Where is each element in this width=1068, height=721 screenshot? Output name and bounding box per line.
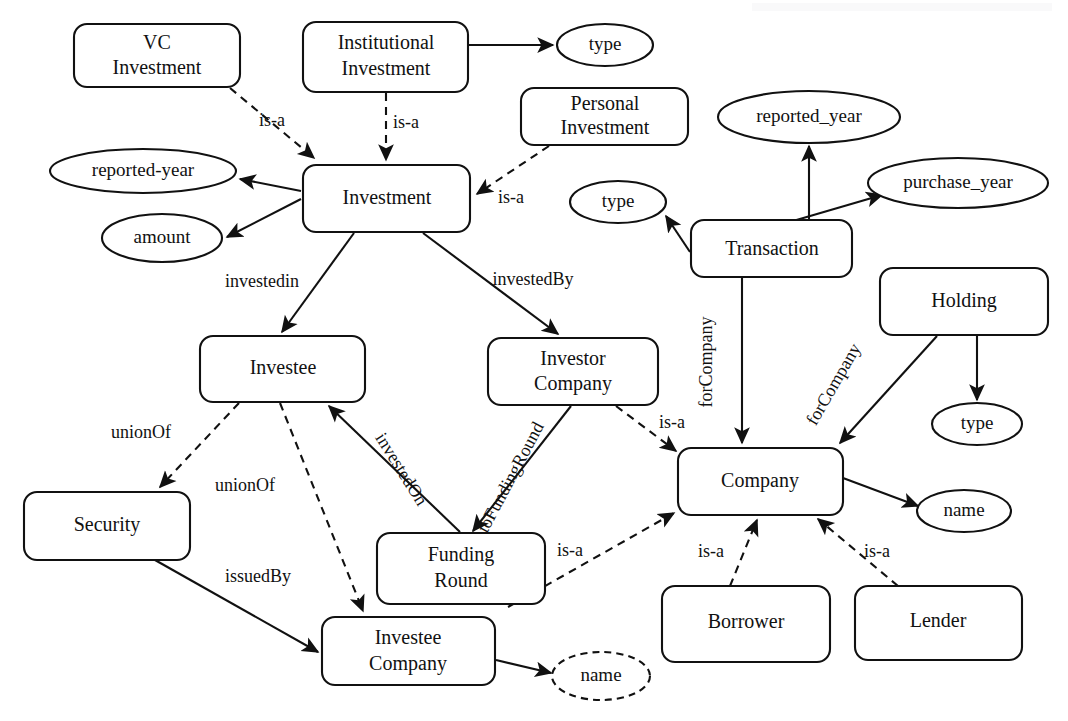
node-company[interactable]: Company	[678, 448, 843, 515]
node-name-company[interactable]: name	[917, 490, 1011, 532]
node-investment[interactable]: Investment	[303, 165, 470, 232]
node-holding[interactable]: Holding	[880, 268, 1048, 335]
node-personal-investment[interactable]: Personal Investment	[521, 88, 688, 145]
node-label-line2: Company	[534, 372, 612, 395]
node-investee[interactable]: Investee	[200, 336, 365, 402]
node-label-line1: Holding	[931, 289, 997, 312]
node-amount[interactable]: amount	[102, 214, 222, 262]
node-label: purchase_year	[903, 171, 1013, 192]
node-label-line1: Personal	[571, 92, 640, 114]
node-label-line1: Investment	[343, 186, 432, 208]
scan-artifact	[752, 3, 1052, 11]
node-label-line1: Lender	[910, 609, 967, 631]
node-security[interactable]: Security	[24, 492, 190, 560]
node-label-line2: Round	[434, 569, 487, 591]
node-label: name	[943, 499, 984, 520]
node-label-line1: Investor	[540, 347, 606, 369]
node-label: reported-year	[92, 159, 195, 180]
node-label: type	[961, 412, 994, 433]
node-label-line1: Funding	[428, 543, 495, 566]
node-label: type	[589, 33, 622, 54]
node-label: type	[602, 190, 635, 211]
node-reported-year[interactable]: reported-year	[50, 149, 236, 193]
node-label-line2: Investment	[561, 116, 650, 138]
node-label-line2: Company	[369, 652, 447, 675]
edge-label-unionof: unionOf	[215, 475, 275, 495]
edge-label-is-a: is-a	[557, 540, 583, 560]
node-investee-company[interactable]: Investee Company	[322, 617, 495, 685]
edge-label-is-a: is-a	[698, 541, 724, 561]
node-label-line2: Investment	[113, 56, 202, 78]
node-vc-investment[interactable]: VC Investment	[74, 24, 240, 87]
node-label-line1: VC	[143, 31, 171, 53]
node-label-line1: Company	[721, 469, 799, 492]
node-label-line1: Investee	[375, 626, 442, 648]
node-type-transaction[interactable]: type	[570, 181, 666, 223]
node-label: amount	[134, 226, 192, 247]
edge-label-is-a: is-a	[864, 541, 890, 561]
node-institutional-investment[interactable]: Institutional Investment	[303, 22, 468, 92]
node-type-holding[interactable]: type	[932, 403, 1022, 445]
node-lender[interactable]: Lender	[855, 586, 1022, 660]
edge-label-investedby: investedBy	[493, 269, 574, 289]
node-type-institutional[interactable]: type	[557, 24, 653, 66]
node-transaction[interactable]: Transaction	[691, 220, 852, 277]
ontology-diagram: is-a is-a is-a investedin investedBy for…	[0, 0, 1068, 721]
node-reported-year-underscore[interactable]: reported_year	[718, 91, 900, 143]
edge-label-is-a: is-a	[498, 187, 524, 207]
node-name-investee-company[interactable]: name	[552, 652, 650, 700]
node-label-line1: Borrower	[708, 610, 785, 632]
node-purchase-year[interactable]: purchase_year	[868, 158, 1048, 208]
edge-label-is-a: is-a	[259, 110, 285, 130]
node-label-line1: Transaction	[725, 237, 819, 259]
edge-label-is-a: is-a	[659, 412, 685, 432]
node-label-line1: Institutional	[338, 31, 435, 53]
node-label: name	[580, 664, 621, 685]
node-borrower[interactable]: Borrower	[662, 586, 830, 662]
node-label-line1: Security	[74, 513, 141, 536]
edge-label-investedin: investedin	[225, 271, 299, 291]
node-investor-company[interactable]: Investor Company	[488, 338, 658, 405]
edge-label-forcompany: forCompany	[696, 317, 716, 408]
edge-label-unionof: unionOf	[111, 422, 171, 442]
node-label-line2: Investment	[342, 57, 431, 79]
edge-label-issuedby: issuedBy	[225, 566, 291, 586]
edge-label-is-a: is-a	[393, 112, 419, 132]
node-label-line1: Investee	[250, 356, 317, 378]
node-label: reported_year	[756, 105, 862, 126]
node-funding-round[interactable]: Funding Round	[377, 533, 545, 604]
